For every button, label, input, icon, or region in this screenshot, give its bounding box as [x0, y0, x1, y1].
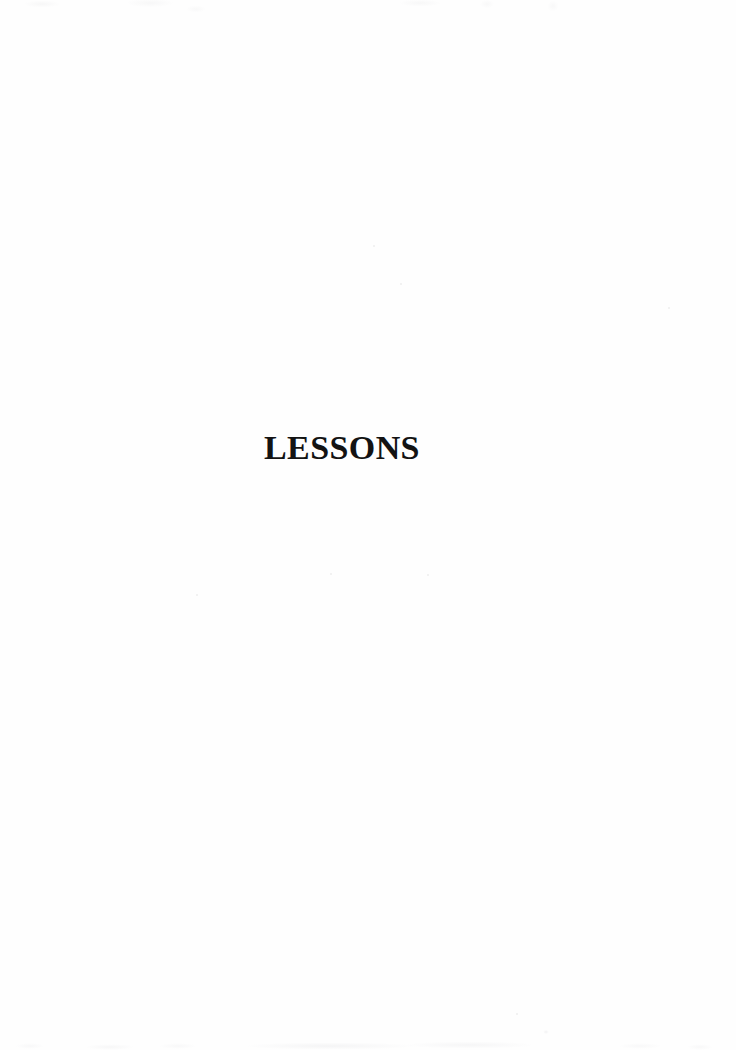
page-title: LESSONS	[264, 428, 420, 468]
scan-edge-noise-top	[0, 0, 736, 26]
dust-speck	[373, 245, 375, 247]
dust-speck	[427, 574, 429, 576]
scan-edge-noise-bottom	[0, 1012, 736, 1050]
dust-speck	[330, 573, 332, 575]
dust-speck	[400, 283, 402, 285]
dust-speck	[196, 594, 198, 596]
part-title-block: LESSONS	[0, 428, 684, 468]
dust-speck	[516, 1013, 518, 1015]
scanned-page: LESSONS	[0, 0, 736, 1050]
dust-speck	[668, 307, 670, 309]
